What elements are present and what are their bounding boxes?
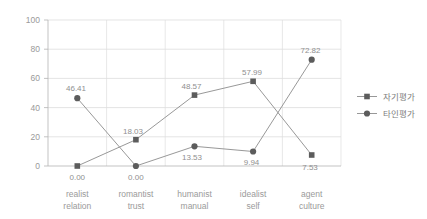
data-point-marker (133, 137, 139, 143)
x-tick-agent-line2: culture (299, 201, 325, 211)
data-label: 9.94 (244, 158, 260, 167)
x-axis-tick-labels: realist relation romantist trust humanis… (63, 189, 324, 211)
x-tick-romantist-line2: trust (128, 201, 145, 211)
legend-item-other-evaluation[interactable]: 타인평가 (357, 109, 415, 119)
y-tick-100: 100 (26, 15, 40, 25)
y-tick-0: 0 (35, 161, 40, 171)
data-label: 0.00 (70, 173, 86, 182)
data-point-marker (133, 163, 139, 169)
data-point-marker (75, 163, 81, 169)
x-tick-realist-line2: relation (63, 201, 91, 211)
x-tick-agent-line1: agent (301, 189, 323, 199)
data-point-marker (309, 57, 315, 63)
y-tick-60: 60 (31, 73, 41, 83)
legend-label-self-evaluation: 자기평가 (383, 92, 415, 102)
y-axis-tick-labels: 100 80 60 40 20 0 (26, 15, 40, 171)
x-tick-romantist-line1: romantist (118, 189, 154, 199)
data-label: 48.57 (181, 82, 202, 91)
x-tick-idealist-line2: self (246, 201, 260, 211)
line-chart: 100 80 60 40 20 0 0.00 18. (0, 0, 427, 219)
data-label: 0.00 (128, 173, 144, 182)
chart-legend: 자기평가 타인평가 (357, 92, 415, 119)
data-labels-other-evaluation: 46.41 0.00 13.53 9.94 72.82 (66, 46, 321, 182)
x-tick-idealist-line1: idealist (240, 189, 267, 199)
circle-marker-icon (364, 110, 370, 116)
data-label: 72.82 (300, 46, 321, 55)
data-label: 57.99 (242, 68, 263, 77)
data-point-marker (192, 92, 198, 98)
x-tick-realist-line1: realist (66, 189, 89, 199)
data-label: 7.53 (302, 163, 318, 172)
data-point-marker (250, 148, 256, 154)
data-label: 18.03 (123, 127, 144, 136)
data-point-marker (250, 79, 256, 85)
y-tick-20: 20 (31, 132, 41, 142)
vertical-gridlines (107, 20, 341, 166)
data-point-marker (309, 152, 315, 158)
data-label: 13.53 (182, 153, 203, 162)
legend-item-self-evaluation[interactable]: 자기평가 (357, 92, 415, 102)
data-point-marker (191, 143, 197, 149)
chart-canvas: 100 80 60 40 20 0 0.00 18. (0, 0, 427, 219)
x-tick-humanist-line1: humanist (177, 189, 212, 199)
data-label: 46.41 (66, 84, 87, 93)
x-tick-humanist-line2: manual (181, 201, 209, 211)
y-tick-80: 80 (31, 44, 41, 54)
y-tick-40: 40 (31, 103, 41, 113)
data-point-marker (74, 95, 80, 101)
square-marker-icon (364, 94, 370, 100)
legend-label-other-evaluation: 타인평가 (383, 109, 415, 119)
horizontal-gridlines (48, 20, 341, 137)
